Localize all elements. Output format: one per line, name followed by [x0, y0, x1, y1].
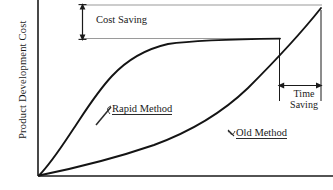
chart-figure: Product Development Cost Cost Saving Tim…: [0, 0, 333, 190]
series-old-method-curve: [39, 8, 321, 176]
time-saving-label-line1: Time: [294, 88, 315, 99]
rapid-method-leader-stroke: [96, 107, 111, 125]
old-method-leader-stroke: [228, 130, 234, 136]
series-label-rapid-method: Rapid Method: [112, 103, 172, 115]
cost-saving-double-arrow: [79, 3, 87, 41]
cost-saving-annotation-label: Cost Saving: [96, 14, 147, 25]
time-saving-annotation-label: TimeSaving: [284, 88, 324, 110]
time-saving-label-line2: Saving: [290, 99, 318, 110]
series-label-old-method: Old Method: [236, 127, 287, 139]
y-axis-title: Product Development Cost: [17, 5, 28, 155]
